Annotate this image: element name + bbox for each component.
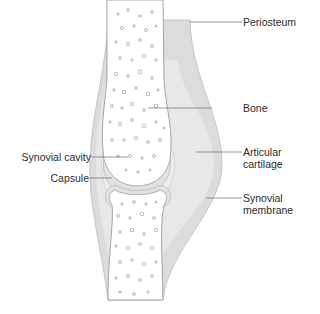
upper-bone xyxy=(102,0,171,186)
label-capsule: Capsule xyxy=(50,172,89,184)
label-periosteum: Periosteum xyxy=(243,16,296,28)
label-articular-cartilage-line2: cartilage xyxy=(243,158,283,170)
label-synovial-cavity: Synovial cavity xyxy=(22,151,91,163)
label-bone: Bone xyxy=(243,102,268,114)
label-articular-cartilage-line1: Articular xyxy=(243,146,282,158)
label-synovial-membrane-line1: Synovial xyxy=(243,192,283,204)
label-synovial-membrane-line2: membrane xyxy=(243,204,293,216)
